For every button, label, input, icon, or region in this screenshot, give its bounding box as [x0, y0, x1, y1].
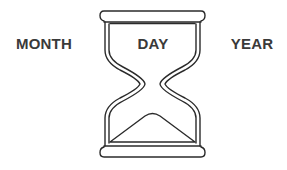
year-label: YEAR — [231, 35, 273, 52]
hourglass-icon — [0, 0, 287, 170]
month-label: MONTH — [16, 35, 72, 52]
day-label: DAY — [138, 35, 169, 52]
hourglass-illustration: MONTH DAY YEAR — [0, 0, 287, 170]
